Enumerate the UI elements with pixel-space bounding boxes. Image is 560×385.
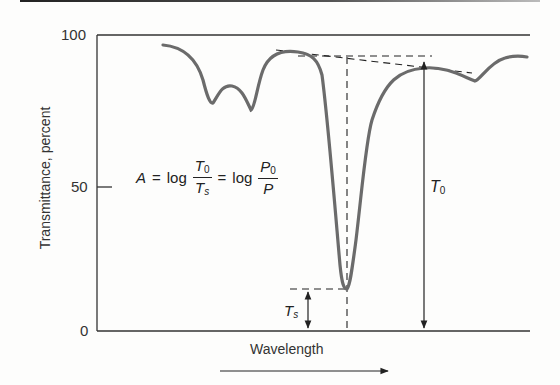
den-t: T (195, 179, 204, 196)
formula-equals: = (152, 169, 161, 186)
ts-letter: T (284, 302, 293, 319)
t0-letter: T (430, 178, 440, 195)
x-axis-label: Wavelength (250, 341, 323, 357)
absorbance-formula: A = log T0 Ts = log P0 P (136, 158, 278, 197)
den-p: P (263, 180, 273, 197)
formula-log-2: log (232, 169, 252, 186)
formula-equals-2: = (218, 169, 227, 186)
num-p-sub: 0 (270, 165, 276, 176)
num-t-sub: 0 (204, 164, 210, 175)
fraction-p0-p: P0 P (258, 159, 278, 196)
y-tick-50: 50 (71, 178, 88, 195)
ts-sub: s (293, 309, 298, 320)
den-t-sub: s (204, 186, 209, 197)
y-tick-100: 100 (61, 26, 86, 43)
fraction-t0-ts: T0 Ts (193, 158, 212, 197)
t0-sub: 0 (440, 185, 446, 196)
y-axis-label: Transmittance, percent (37, 93, 53, 263)
num-p: P (260, 158, 270, 175)
t0-label: T0 (430, 178, 445, 196)
ts-label: Ts (284, 302, 298, 320)
num-t: T (195, 157, 204, 174)
formula-log-1: log (167, 169, 187, 186)
y-tick-0: 0 (80, 322, 88, 339)
formula-lhs: A (136, 169, 146, 186)
